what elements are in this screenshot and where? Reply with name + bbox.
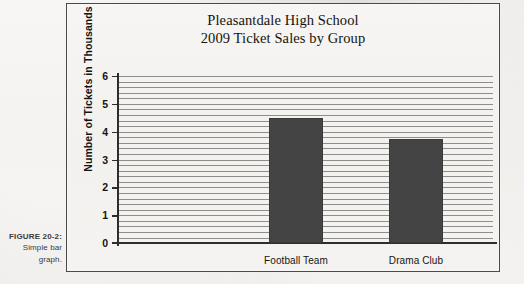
y-tick-mark [112, 187, 118, 188]
x-label-drama-club: Drama Club [389, 255, 443, 266]
y-tick-mark [112, 160, 118, 161]
y-tick-mark [112, 76, 118, 77]
x-label-football-team: Football Team [264, 255, 328, 266]
figure-number: FIGURE 20-2: [0, 231, 62, 242]
y-tick-mark [112, 243, 118, 244]
y-tick-label: 4 [94, 126, 108, 137]
y-axis-label: Number of Tickets in Thousands [82, 3, 96, 175]
y-tick-label: 1 [94, 210, 108, 221]
bar-drama-club[interactable] [389, 139, 443, 243]
y-tick-label: 3 [94, 154, 108, 165]
figure-description: Simple bar graph. [0, 242, 62, 265]
chart-title: Pleasantdale High School 2009 Ticket Sal… [67, 12, 499, 47]
plot-area: 6543210 [118, 76, 493, 243]
figure-frame: Pleasantdale High School 2009 Ticket Sal… [66, 3, 500, 272]
y-tick-mark [112, 104, 118, 105]
chart-title-line-2: 2009 Ticket Sales by Group [67, 30, 499, 48]
y-tick-label: 5 [94, 99, 108, 110]
chart-title-line-1: Pleasantdale High School [67, 12, 499, 30]
y-tick-mark [112, 132, 118, 133]
y-tick-label: 6 [94, 71, 108, 82]
y-tick-mark [112, 215, 118, 216]
y-tick-label: 0 [94, 238, 108, 249]
y-tick-label: 2 [94, 182, 108, 193]
figure-caption: FIGURE 20-2: Simple bar graph. [0, 231, 62, 265]
bar-football-team[interactable] [269, 118, 323, 243]
